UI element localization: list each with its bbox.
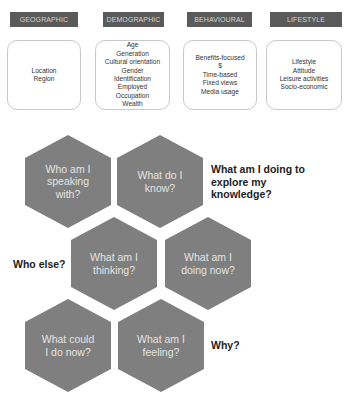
hex-line: doing now? <box>181 264 235 277</box>
hexagon-label-thinking: What am I thinking? <box>71 240 157 287</box>
label-line: What am I doing to <box>211 163 305 176</box>
hexagon-label-feeling: What am I feeling? <box>118 322 204 369</box>
hexagon-label-speaking-with: Who am I speaking with? <box>25 158 111 205</box>
label-line: knowledge? <box>211 188 305 201</box>
hex-line: What could <box>42 333 95 346</box>
hex-line: I do now? <box>45 346 91 359</box>
hex-line: What am I <box>90 251 138 264</box>
hex-line: What do I <box>138 169 183 182</box>
who-else-label: Who else? <box>13 258 66 271</box>
hexagon-label-know: What do I know? <box>117 158 203 205</box>
hex-line: know? <box>145 182 175 195</box>
hexagon-label-could-do-now: What could I do now? <box>25 322 111 369</box>
why-label: Why? <box>211 339 240 352</box>
hex-line: Who am I <box>46 163 91 176</box>
hex-line: feeling? <box>143 346 180 359</box>
hex-line: What am I <box>137 333 185 346</box>
hex-line: What am I <box>184 251 232 264</box>
hex-line: with? <box>56 188 81 201</box>
hex-line: speaking <box>47 175 89 188</box>
explore-knowledge-label: What am I doing to explore my knowledge? <box>211 163 305 201</box>
label-line: Why? <box>211 339 240 352</box>
label-line: explore my <box>211 176 305 189</box>
hex-line: thinking? <box>93 264 135 277</box>
hexagon-label-doing-now: What am I doing now? <box>165 240 251 287</box>
label-line: Who else? <box>13 258 66 271</box>
